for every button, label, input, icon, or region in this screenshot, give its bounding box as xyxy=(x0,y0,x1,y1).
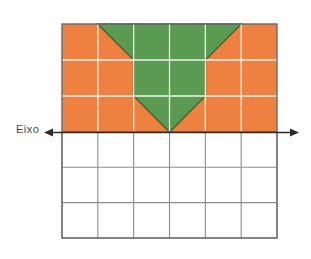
white-area-gridlines xyxy=(62,132,277,238)
axis-label: Eixo xyxy=(16,123,39,135)
geometry-figure: Eixo xyxy=(0,0,311,259)
axis-arrow-left-icon xyxy=(44,129,53,137)
axis-arrow-right-icon xyxy=(290,129,299,137)
figure-canvas xyxy=(0,0,311,259)
